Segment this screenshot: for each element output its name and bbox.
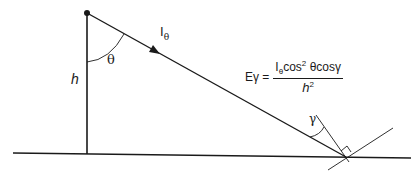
gamma-label: γ bbox=[309, 113, 316, 125]
formula-lhs: Eγ = bbox=[245, 70, 269, 84]
numerator-rest: θcosγ bbox=[306, 60, 341, 74]
ground-line bbox=[13, 153, 411, 158]
right-angle-marker bbox=[341, 146, 351, 152]
theta-arc bbox=[87, 34, 124, 62]
surface-normal-line bbox=[316, 115, 349, 162]
intensity-label: Iθ bbox=[160, 25, 169, 42]
tilted-surface-line bbox=[328, 128, 393, 170]
denominator-base: h bbox=[302, 81, 309, 96]
formula-denominator: h2 bbox=[302, 79, 314, 95]
theta-label: θ bbox=[107, 53, 115, 66]
formula-fraction: Iθcos2 θcosγ h2 bbox=[273, 59, 343, 96]
illuminance-formula: Eγ = Iθcos2 θcosγ h2 bbox=[245, 59, 343, 96]
intensity-subscript: θ bbox=[164, 32, 169, 42]
numerator-cos: cos bbox=[283, 60, 302, 74]
height-label: h bbox=[71, 72, 79, 86]
gamma-arc bbox=[310, 127, 324, 137]
diagram-canvas bbox=[0, 0, 420, 180]
formula-numerator: Iθcos2 θcosγ bbox=[273, 59, 343, 79]
denominator-exponent: 2 bbox=[310, 80, 314, 89]
ray-arrow-icon bbox=[149, 45, 160, 54]
